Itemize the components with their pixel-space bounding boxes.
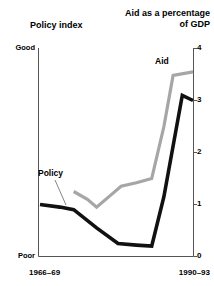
chart-figure: Policy index Aid as a percentageof GDP G… (0, 0, 214, 286)
series-label-aid: Aid (155, 56, 169, 66)
x-axis-tick-start: 1966–69 (29, 268, 60, 277)
series-label-policy: Policy (38, 168, 63, 178)
chart-title-right-line2: of GDP (180, 19, 211, 29)
y-axis-tick-4: 4 (197, 43, 211, 52)
y-axis-tick-2: 2 (197, 147, 211, 156)
chart-title-left: Policy index (30, 20, 83, 31)
chart-title-right: Aid as a percentageof GDP (104, 8, 210, 30)
policy-label-leader-line (55, 180, 66, 205)
chart-title-right-line1: Aid as a percentage (125, 8, 210, 18)
y-axis-tick-1: 1 (197, 199, 211, 208)
y-axis-tick-3: 3 (197, 95, 211, 104)
left-axis-top-label: Good (6, 43, 35, 52)
y-axis-tick-0: 0 (197, 251, 211, 260)
left-axis-bottom-label: Poor (6, 251, 35, 260)
x-axis-tick-end: 1990–93 (134, 268, 210, 277)
